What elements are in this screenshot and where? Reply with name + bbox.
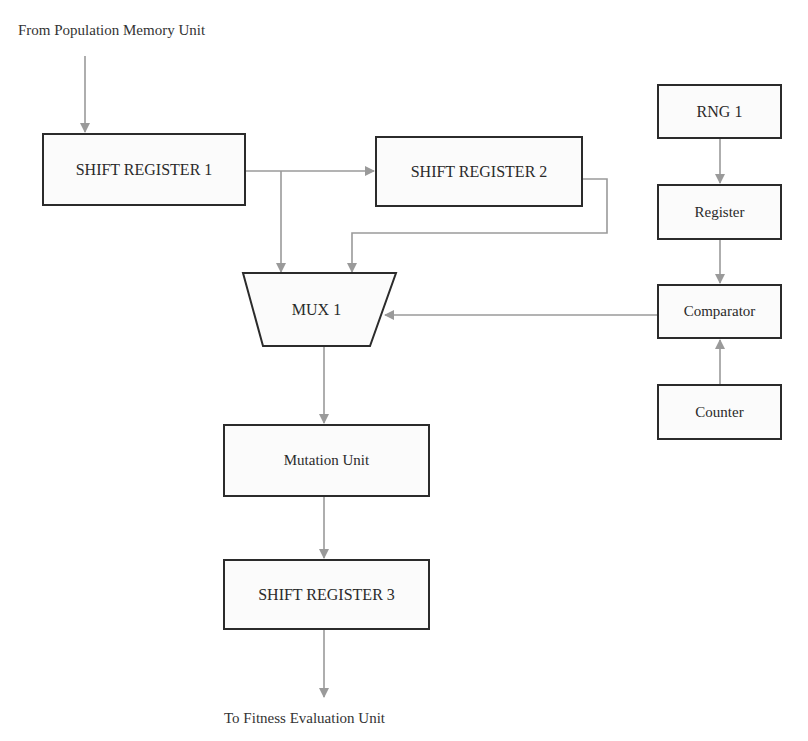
shift-register-3-block: SHIFT REGISTER 3 xyxy=(223,559,430,630)
shift-register-1-block: SHIFT REGISTER 1 xyxy=(42,133,246,206)
input-label: From Population Memory Unit xyxy=(18,22,205,39)
counter-block: Counter xyxy=(657,384,782,440)
mux-1-label: MUX 1 xyxy=(263,273,370,346)
output-label: To Fitness Evaluation Unit xyxy=(224,710,385,727)
register-block: Register xyxy=(657,184,782,240)
comparator-block: Comparator xyxy=(657,284,782,339)
mutation-unit-block: Mutation Unit xyxy=(223,424,430,497)
block-diagram: From Population Memory Unit To Fitness E… xyxy=(0,0,808,741)
shift-register-2-block: SHIFT REGISTER 2 xyxy=(375,136,583,207)
rng-1-block: RNG 1 xyxy=(657,84,782,139)
